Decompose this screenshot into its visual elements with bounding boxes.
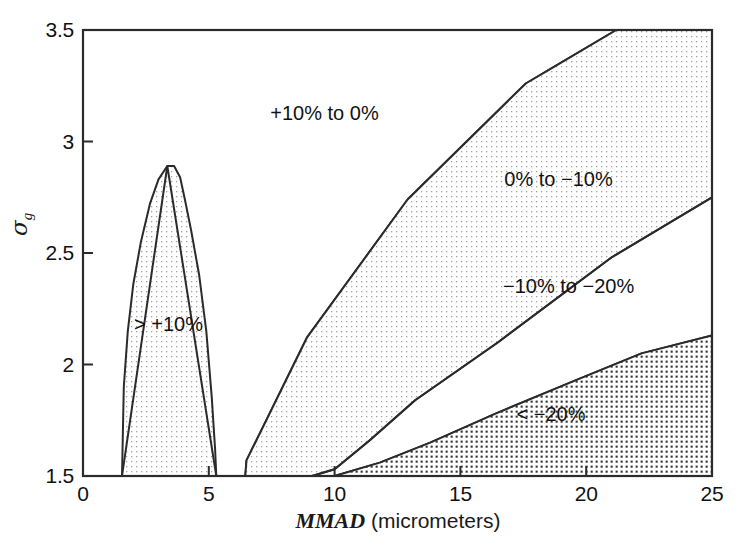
- ytick-label-3.5: 3.5: [28, 18, 74, 42]
- x-axis-label-units: (micrometers): [365, 509, 500, 532]
- sigma-subscript: g: [19, 213, 35, 221]
- region-label-minus10-to-minus20: −10% to −20%: [503, 275, 634, 298]
- xtick-label-0: 0: [77, 482, 88, 506]
- sigma-symbol: σ: [6, 220, 32, 236]
- plot-regions: [83, 30, 712, 476]
- x-axis-label-mmad: MMAD: [295, 508, 365, 533]
- y-axis-label: σg: [6, 213, 36, 236]
- xtick-label-5: 5: [203, 482, 214, 506]
- region-label-above-plus-10: > +10%: [134, 313, 203, 336]
- xtick-label-20: 20: [575, 482, 598, 506]
- x-axis-label: MMAD (micrometers): [295, 508, 500, 534]
- ytick-label-1.5: 1.5: [28, 464, 74, 488]
- region-polygons: [83, 30, 712, 476]
- region-label-0-to-minus10: 0% to −10%: [504, 168, 612, 191]
- figure-container: 3.5 3 2.5 2 1.5 0 5 10 15 20 25 σg MMAD …: [0, 0, 739, 557]
- xtick-label-25: 25: [701, 482, 724, 506]
- region-label-plus10-to-0: +10% to 0%: [270, 101, 378, 124]
- ytick-label-2.5: 2.5: [28, 241, 74, 265]
- ytick-label-2: 2: [28, 353, 74, 377]
- ytick-label-3: 3: [28, 130, 74, 154]
- xtick-label-10: 10: [323, 482, 346, 506]
- xtick-label-15: 15: [449, 482, 472, 506]
- region-label-below-minus20: < −20%: [517, 402, 586, 425]
